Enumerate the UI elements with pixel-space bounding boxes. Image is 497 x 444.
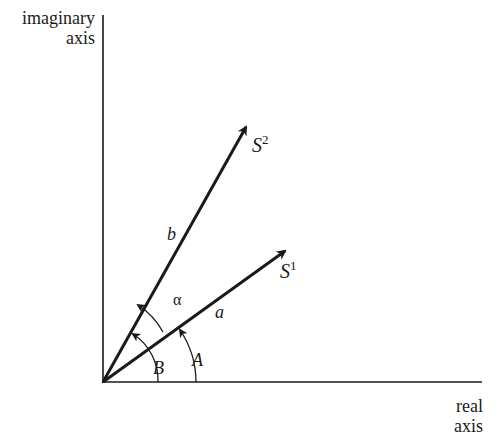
magnitude-b-label: b: [167, 224, 176, 244]
angle-a-label: A: [192, 350, 203, 370]
imaginary-axis-label: imaginary axis: [0, 8, 95, 48]
angle-alpha-arc: [138, 305, 163, 332]
imaginary-axis-label-line1: imaginary: [0, 8, 95, 28]
magnitude-a-label: a: [215, 302, 224, 322]
phasor-diagram: [0, 0, 497, 444]
vector-s1-label: S1: [280, 256, 297, 281]
real-axis-label-line1: real: [400, 396, 483, 416]
real-axis-label-line2: axis: [400, 416, 483, 436]
angle-b-label: B: [153, 358, 164, 378]
real-axis-label: real axis: [400, 396, 483, 436]
imaginary-axis-label-line2: axis: [0, 28, 95, 48]
vector-s2-arrow: [103, 127, 246, 382]
angle-alpha-label: α: [173, 290, 181, 310]
vector-s2-label: S2: [252, 130, 269, 155]
